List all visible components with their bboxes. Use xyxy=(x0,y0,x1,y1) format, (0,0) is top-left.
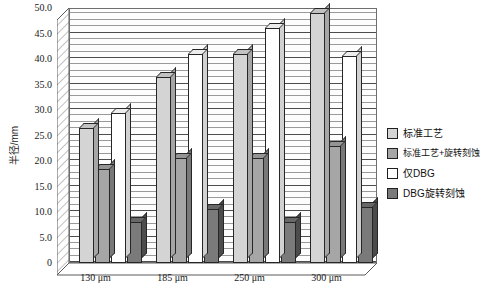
bar-front-face xyxy=(156,77,171,263)
y-axis-tick-labels: 05.010.015.020.025.030.035.040.045.050.0 xyxy=(0,0,52,303)
legend-item: 标准工艺+旋转刻蚀 xyxy=(387,148,497,159)
bar-front-face xyxy=(310,13,325,263)
bar-side-face xyxy=(357,46,362,258)
y-axis-tick-label: 45.0 xyxy=(6,29,52,39)
plot-area xyxy=(57,8,377,273)
y-axis-tick-label: 15.0 xyxy=(6,182,52,192)
bar-front-face xyxy=(233,54,248,263)
y-axis-tick-label: 0 xyxy=(6,258,52,268)
legend-swatch-icon xyxy=(387,148,398,159)
bar-side-face xyxy=(248,44,253,258)
bar-side-face xyxy=(341,136,346,258)
x-axis-tick-label: 185 μm xyxy=(134,272,211,284)
bar xyxy=(233,49,248,263)
legend-item-label: DBG旋转刻蚀 xyxy=(403,188,465,199)
bar-side-face xyxy=(325,3,330,258)
legend-item: 标准工艺 xyxy=(387,128,497,139)
y-axis-tick-label: 25.0 xyxy=(6,131,52,141)
legend-item-label: 仅DBG xyxy=(403,168,435,179)
bar xyxy=(310,8,325,263)
bars-container xyxy=(69,8,377,263)
bar-side-face xyxy=(126,103,131,258)
y-axis-tick-label: 30.0 xyxy=(6,105,52,115)
bar-side-face xyxy=(171,67,176,258)
y-axis-tick-label: 35.0 xyxy=(6,80,52,90)
x-axis-tick-labels: 130 μm185 μm250 μm300 μm xyxy=(57,272,387,292)
legend-item-label: 标准工艺+旋转刻蚀 xyxy=(403,148,480,159)
bar xyxy=(156,72,171,263)
x-axis-tick-label: 300 μm xyxy=(288,272,365,284)
bar-chart: 半径/mm 05.010.015.020.025.030.035.040.045… xyxy=(0,0,499,303)
bar-side-face xyxy=(187,148,192,258)
legend-item-label: 标准工艺 xyxy=(403,128,443,139)
y-axis-tick-label: 10.0 xyxy=(6,207,52,217)
y-axis-tick-label: 50.0 xyxy=(6,3,52,13)
legend-item: DBG旋转刻蚀 xyxy=(387,188,497,199)
bar-side-face xyxy=(264,148,269,258)
y-axis-tick-label: 40.0 xyxy=(6,54,52,64)
chart-legend: 标准工艺标准工艺+旋转刻蚀仅DBGDBG旋转刻蚀 xyxy=(387,128,497,208)
legend-swatch-icon xyxy=(387,168,398,179)
x-axis-tick-label: 250 μm xyxy=(211,272,288,284)
legend-item: 仅DBG xyxy=(387,168,497,179)
bar-side-face xyxy=(203,44,208,258)
bar xyxy=(79,123,94,263)
legend-swatch-icon xyxy=(387,188,398,199)
legend-swatch-icon xyxy=(387,128,398,139)
bar-side-face xyxy=(280,18,285,258)
bar-side-face xyxy=(110,159,115,258)
y-axis-tick-label: 5.0 xyxy=(6,233,52,243)
bar-front-face xyxy=(79,128,94,263)
bar-side-face xyxy=(94,118,99,258)
x-axis-tick-label: 130 μm xyxy=(57,272,134,284)
y-axis-tick-label: 20.0 xyxy=(6,156,52,166)
